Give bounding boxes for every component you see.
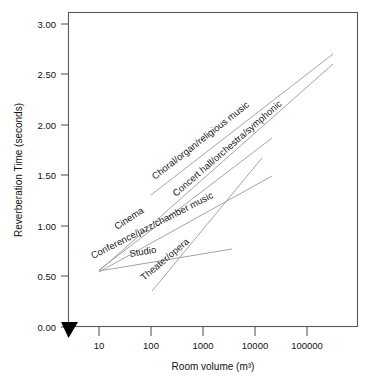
plot-frame xyxy=(69,13,358,327)
x-tick-label-1000: 1000 xyxy=(192,340,213,351)
series-labels: Choral/organ/religious music Concert hal… xyxy=(89,98,284,283)
y-tick-label-0_5: 0.50 xyxy=(38,271,57,282)
x-axis-ticks xyxy=(99,327,307,336)
x-tick-label-10: 10 xyxy=(94,340,105,351)
line-theater-opera xyxy=(152,158,262,291)
y-tick-label-1: 1.00 xyxy=(38,221,57,232)
y-axis-ticks xyxy=(61,24,69,327)
reverberation-time-chart: 3.00 2.50 2.00 1.50 1.00 0.50 0.00 10 10… xyxy=(0,0,373,382)
y-axis-title: Reverberation Time (seconds) xyxy=(13,103,24,237)
line-choral-organ-religious-music xyxy=(151,54,333,195)
x-tick-label-100000: 100000 xyxy=(291,340,323,351)
y-tick-label-0: 0.00 xyxy=(38,322,57,333)
y-tick-label-2_5: 2.50 xyxy=(38,69,57,80)
x-axis-tick-labels: 10 100 1000 10000 100000 xyxy=(94,340,323,351)
origin-triangle-marker xyxy=(61,322,78,338)
y-tick-label-3: 3.00 xyxy=(38,19,57,30)
x-tick-label-10000: 10000 xyxy=(242,340,268,351)
x-axis-title: Room volume (m³) xyxy=(172,361,255,372)
x-tick-label-100: 100 xyxy=(143,340,159,351)
y-axis-tick-labels: 3.00 2.50 2.00 1.50 1.00 0.50 0.00 xyxy=(38,19,57,333)
y-tick-label-1_5: 1.50 xyxy=(38,170,57,181)
series-label-studio: Studio xyxy=(129,244,157,259)
y-tick-label-2: 2.00 xyxy=(38,120,57,131)
